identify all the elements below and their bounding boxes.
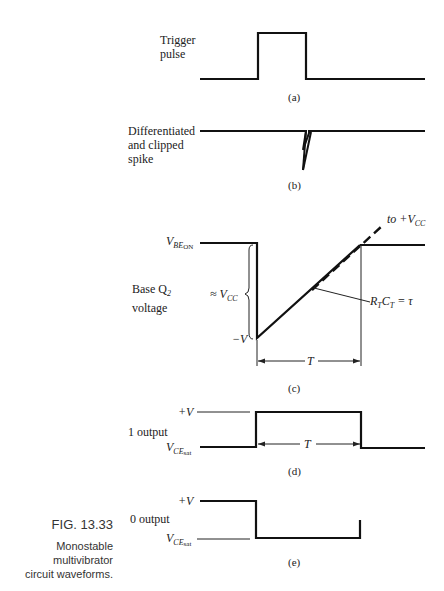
vce-sat-label-d: VCEsat (166, 440, 191, 460)
to-vcc-label: to +VCC (387, 212, 425, 231)
panel-e-tag: (e) (288, 556, 300, 568)
figure-number: FIG. 13.33 (52, 518, 113, 532)
vbe-sub: BE (173, 241, 183, 250)
vce-subsub-d: sat (184, 449, 192, 457)
panel-a-tag: (a) (288, 91, 300, 103)
approx-vcc-label: ≈ VCC (210, 287, 238, 306)
vce-subsub-e: sat (184, 540, 192, 548)
spike-label-line3: spike (128, 152, 195, 166)
vcc-brace (245, 245, 253, 339)
spike-label-line2: and clipped (128, 138, 195, 152)
to-vcc-sub: CC (415, 219, 426, 228)
one-output-label: 1 output (128, 425, 168, 439)
vce-sub-e: CE (173, 538, 183, 547)
trigger-label-line2: pulse (160, 47, 196, 61)
vce-sat-label-e: VCEsat (166, 531, 191, 551)
base-q2-sub: 2 (167, 289, 171, 298)
zero-output-waveform (200, 501, 360, 538)
panel-c-tag: (c) (288, 382, 300, 394)
trigger-pulse-waveform (200, 33, 425, 79)
dashed-extension (312, 226, 382, 290)
approx-vcc-sub: CC (227, 294, 238, 303)
rc-tau-label: RTCT = τ (370, 294, 413, 313)
plus-v-label-d: +V (178, 405, 193, 419)
rc-c: C (382, 294, 390, 308)
approx-vcc-main: ≈ V (210, 287, 227, 301)
voltage-text: voltage (132, 301, 171, 315)
trigger-label-line1: Trigger (160, 33, 196, 47)
spike-waveform (200, 131, 425, 150)
base-q2-text: Base Q (132, 282, 167, 296)
vbe-subsub: ON (183, 243, 193, 251)
period-t-label-c: T (307, 354, 314, 368)
figure-caption-line1: Monostable multivibrator (0, 539, 113, 567)
plus-v-label-e: +V (178, 494, 193, 508)
trigger-label: Trigger pulse (160, 33, 196, 61)
base-q2-label: Base Q2 voltage (132, 282, 171, 315)
zero-output-label: 0 output (130, 512, 170, 526)
vce-sub-d: CE (173, 447, 183, 456)
panel-b-tag: (b) (288, 179, 301, 191)
neg-v-label: −V (232, 332, 247, 346)
spike-label: Differentiated and clipped spike (128, 124, 195, 166)
vbe-on-label: VBEON (166, 234, 193, 254)
rc-tau: = τ (394, 294, 412, 308)
to-vcc-main: to +V (387, 212, 415, 226)
period-t-label-d: T (304, 437, 311, 451)
figure-caption-line2: circuit waveforms. (0, 567, 113, 581)
figure-caption: Monostable multivibrator circuit wavefor… (0, 539, 113, 581)
spike-label-line1: Differentiated (128, 124, 195, 138)
one-output-waveform (200, 412, 425, 448)
panel-d-tag: (d) (288, 465, 301, 477)
